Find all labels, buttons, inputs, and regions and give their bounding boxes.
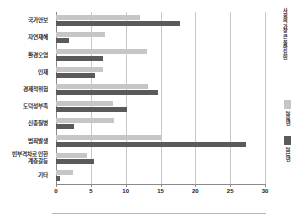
bar[interactable] (56, 101, 113, 106)
bar[interactable] (56, 107, 127, 112)
legend-title: 사회의 가장 큰 불안요인 (281, 8, 286, 60)
x-tick-label: 30 (262, 188, 269, 194)
category-label: 환경오염 (0, 46, 52, 63)
bar[interactable] (56, 176, 60, 181)
bar[interactable] (56, 135, 161, 140)
x-tick-label: 20 (192, 188, 199, 194)
category-label: 경제적위험 (0, 81, 52, 98)
bars-layer (56, 12, 265, 184)
legend-swatch-icon (284, 100, 291, 109)
legend-entry-2008[interactable]: 2008년 (278, 100, 296, 126)
bar[interactable] (56, 21, 180, 26)
bar[interactable] (56, 118, 114, 123)
x-axis-ticks: 051015202530 (56, 184, 265, 200)
x-tick-mark (56, 184, 57, 187)
category-label: 신종질병 (0, 115, 52, 132)
gridline (265, 12, 266, 184)
category-label: 자연재해 (0, 29, 52, 46)
x-tick-label: 15 (157, 188, 164, 194)
category-label: 인재 (0, 64, 52, 81)
bar[interactable] (56, 84, 148, 89)
bar[interactable] (56, 67, 103, 72)
bar-chart: 국가안보 자연재해 환경오염 인재 경제적위험 도덕성부족 신종질병 범죄발생 … (0, 0, 303, 222)
x-tick-label: 5 (89, 188, 92, 194)
bar[interactable] (56, 38, 69, 43)
bar[interactable] (56, 170, 73, 175)
x-tick-mark (195, 184, 196, 187)
x-tick-label: 10 (122, 188, 129, 194)
bar[interactable] (56, 32, 105, 37)
bar-group (56, 81, 265, 98)
bar[interactable] (56, 142, 246, 147)
x-tick-label: 0 (54, 188, 57, 194)
legend-entry-2010[interactable]: 2010년 (278, 136, 296, 162)
bar-group (56, 150, 265, 167)
x-tick-mark (161, 184, 162, 187)
legend-swatch-icon (284, 136, 291, 145)
bar[interactable] (56, 49, 147, 54)
bar[interactable] (56, 90, 158, 95)
bar[interactable] (56, 153, 87, 158)
x-tick-mark (91, 184, 92, 187)
bar-group (56, 46, 265, 63)
bar-group (56, 167, 265, 184)
category-label: 도덕성부족 (0, 98, 52, 115)
x-tick-mark (126, 184, 127, 187)
bar-group (56, 132, 265, 149)
x-tick-mark (265, 184, 266, 187)
bar[interactable] (56, 15, 140, 20)
bar[interactable] (56, 159, 94, 164)
plot-area (56, 12, 265, 184)
category-label: 국가안보 (0, 12, 52, 29)
category-label: 빈부격차로 인한 계층갈등 (0, 150, 52, 167)
legend-label: 2008년 (285, 111, 290, 126)
bar-group (56, 12, 265, 29)
category-label: 기타 (0, 167, 52, 184)
category-axis: 국가안보 자연재해 환경오염 인재 경제적위험 도덕성부족 신종질병 범죄발생 … (0, 12, 52, 184)
legend-label: 2010년 (285, 147, 290, 162)
bar[interactable] (56, 124, 74, 129)
bar-group (56, 115, 265, 132)
bar[interactable] (56, 56, 103, 61)
category-label: 범죄발생 (0, 132, 52, 149)
bar-group (56, 29, 265, 46)
bar-group (56, 64, 265, 81)
legend: 사회의 가장 큰 불안요인 2008년 2010년 (274, 8, 302, 178)
x-tick-mark (230, 184, 231, 187)
bar-group (56, 98, 265, 115)
bar[interactable] (56, 73, 95, 78)
bottom-divider (52, 213, 266, 214)
x-tick-label: 25 (227, 188, 234, 194)
